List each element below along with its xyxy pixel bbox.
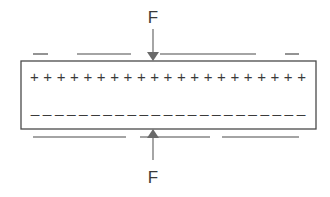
- arrow-down-icon: [147, 52, 159, 61]
- top-force-arrow: [147, 29, 159, 61]
- negative-charges-row: -----------------------: [29, 107, 307, 122]
- force-label-bottom: F: [148, 168, 158, 187]
- bottom-force-arrow: [147, 129, 159, 160]
- force-label-top: F: [148, 8, 158, 27]
- positive-charges-row: +++++++++++++++++++++: [30, 68, 306, 85]
- arrow-up-icon: [147, 129, 159, 138]
- piezoelectric-diagram: F F +++++++++++++++++++++ --------------…: [0, 0, 330, 197]
